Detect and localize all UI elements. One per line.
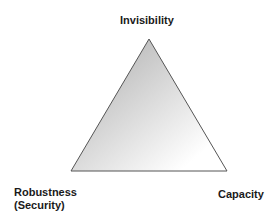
robustness-label-line2: (Security): [14, 199, 77, 212]
vertex-label-robustness: Robustness (Security): [14, 186, 77, 212]
vertex-label-invisibility: Invisibility: [120, 14, 174, 27]
triangle: [71, 39, 227, 171]
vertex-label-capacity: Capacity: [218, 188, 264, 201]
robustness-label-line1: Robustness: [14, 186, 77, 199]
